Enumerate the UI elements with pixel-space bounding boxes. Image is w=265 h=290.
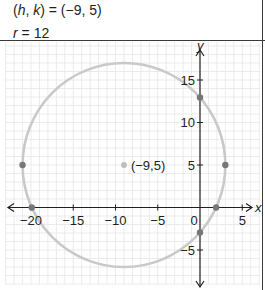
- circle-point: [19, 162, 25, 168]
- x-tick-label: −5: [150, 213, 165, 228]
- center-point: [121, 162, 127, 168]
- circle-graph: −20−15−10−505−551015xy(−9,5): [0, 0, 265, 290]
- y-tick-label: 15: [181, 73, 195, 88]
- circle-point: [197, 229, 203, 235]
- x-tick-label: −20: [20, 213, 42, 228]
- circle-point: [29, 204, 35, 210]
- y-axis-label: y: [196, 38, 205, 53]
- y-tick-label: 5: [188, 158, 195, 173]
- x-tick-label: −10: [104, 213, 126, 228]
- center-point-label: (−9,5): [131, 158, 165, 173]
- y-tick-label: −5: [180, 243, 195, 258]
- circle-point: [213, 204, 219, 210]
- x-axis-label: x: [254, 200, 262, 215]
- x-tick-label: 0: [190, 213, 197, 228]
- x-tick-label: −15: [62, 213, 84, 228]
- y-tick-label: 10: [181, 115, 195, 130]
- x-tick-label: 5: [239, 213, 246, 228]
- circle-point: [222, 162, 228, 168]
- circle-point: [197, 94, 203, 100]
